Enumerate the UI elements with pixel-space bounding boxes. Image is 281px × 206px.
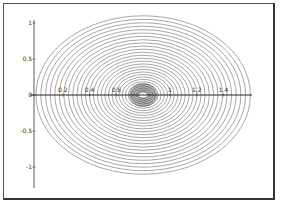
x-tick-label: 1.2 <box>192 86 202 93</box>
x-tick-label: 0.6 <box>112 86 122 93</box>
y-tick-label: -0.5 <box>20 127 32 134</box>
x-tick-label: 0.2 <box>58 86 68 93</box>
y-tick-label: 1 <box>28 19 32 26</box>
x-tick-label: 1.4 <box>219 86 229 93</box>
x-tick-label: 1 <box>168 86 172 93</box>
contour-chart: 0.20.40.611.21.410.50-0.5-1 <box>0 0 281 206</box>
x-tick-label: 0.4 <box>85 86 95 93</box>
y-tick-label: -1 <box>26 163 32 170</box>
y-tick-label: 0 <box>28 91 32 98</box>
y-tick-label: 0.5 <box>22 55 32 62</box>
